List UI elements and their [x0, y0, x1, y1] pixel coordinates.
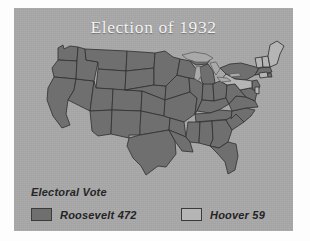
roosevelt-swatch	[31, 208, 52, 221]
hoover-swatch	[181, 208, 202, 221]
state-connecticut	[259, 72, 268, 78]
state-new-mexico	[111, 110, 141, 138]
state-colorado	[112, 89, 142, 111]
legend-entry-roosevelt: Roosevelt 472	[31, 208, 137, 221]
map-svg	[14, 38, 293, 190]
map-legend: Electoral Vote Roosevelt 472 Hoover 59	[14, 186, 293, 231]
roosevelt-states	[47, 45, 272, 175]
state-oregon	[52, 60, 77, 79]
legend-label-roosevelt: Roosevelt 472	[60, 209, 137, 221]
page-title: Election of 1932	[14, 17, 293, 38]
legend-heading: Electoral Vote	[31, 186, 107, 198]
legend-label-hoover: Hoover 59	[210, 209, 265, 221]
lake-ontario	[229, 73, 241, 77]
state-mississippi	[186, 122, 200, 143]
legend-entry-hoover: Hoover 59	[181, 208, 265, 221]
state-arizona	[90, 110, 112, 136]
state-texas	[127, 130, 176, 175]
state-washington	[58, 45, 78, 61]
state-wyoming	[96, 69, 126, 90]
us-electoral-map	[14, 38, 293, 190]
state-california	[47, 77, 76, 128]
state-indiana	[202, 84, 214, 101]
state-delaware	[255, 87, 259, 94]
state-florida	[210, 142, 238, 174]
state-maine	[268, 41, 284, 67]
figure-panel: Election of 1932	[14, 8, 293, 231]
state-alabama	[199, 121, 213, 146]
election-map-figure: Election of 1932	[0, 0, 310, 241]
